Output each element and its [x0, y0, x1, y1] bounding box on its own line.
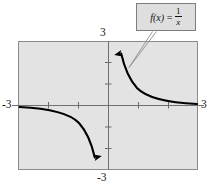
function-callout-box: f(x) = 1 x: [136, 3, 196, 31]
formula-fraction: 1 x: [175, 7, 182, 27]
formula-denominator: x: [175, 17, 181, 27]
function-formula: f(x) = 1 x: [137, 4, 195, 30]
formula-numerator: 1: [175, 7, 182, 17]
function-graph-figure: 3 -3 -3 3: [0, 0, 215, 187]
formula-equals-sign: =: [167, 12, 173, 23]
curve-branch-positive: [121, 54, 197, 105]
callout-leader-line: [129, 32, 157, 68]
formula-function-name: f(x): [150, 12, 164, 23]
curve-branch-negative: [20, 107, 95, 158]
